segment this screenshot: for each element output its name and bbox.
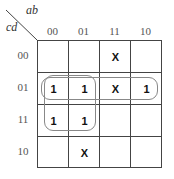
cell-01-00: 1: [38, 73, 69, 105]
row-label-10: 10: [12, 145, 34, 157]
cell-10-01: X: [69, 137, 100, 169]
cell-10-10: [131, 137, 162, 169]
cell-10-00: [38, 137, 69, 169]
col-label-10: 10: [130, 25, 161, 37]
cell-00-10: [131, 41, 162, 73]
cell-01-10: 1: [131, 73, 162, 105]
cell-11-01: 1: [69, 105, 100, 137]
row-label-00: 00: [12, 49, 34, 61]
col-variable-label: ab: [26, 3, 38, 18]
cell-00-11: X: [100, 41, 131, 73]
cell-01-11: X: [100, 73, 131, 105]
cell-11-10: [131, 105, 162, 137]
cell-00-00: [38, 41, 69, 73]
kmap-grid: X 1 1 X 1 1 1 X: [37, 40, 162, 168]
cell-11-11: [100, 105, 131, 137]
row-label-01: 01: [12, 81, 34, 93]
cell-11-00: 1: [38, 105, 69, 137]
row-label-11: 11: [12, 113, 34, 125]
col-label-00: 00: [37, 25, 68, 37]
cell-10-11: [100, 137, 131, 169]
row-variable-label: cd: [6, 20, 17, 35]
cell-00-01: [69, 41, 100, 73]
col-label-01: 01: [68, 25, 99, 37]
cell-01-01: 1: [69, 73, 100, 105]
col-label-11: 11: [99, 25, 130, 37]
